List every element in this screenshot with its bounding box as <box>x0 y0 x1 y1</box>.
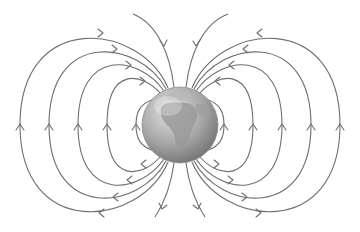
earth-globe <box>142 87 218 163</box>
arrow-left-icon <box>127 176 132 184</box>
arrow-right-icon <box>126 61 131 69</box>
field-line-open-top-left <box>133 14 174 87</box>
arrow-left-icon <box>141 160 146 168</box>
field-line-open-bottom-left <box>155 163 174 217</box>
arrow-left-icon <box>257 29 262 37</box>
arrow-right-icon <box>256 209 261 217</box>
arrow-left-icon <box>229 61 234 69</box>
field-line-open-top-right <box>186 14 228 87</box>
arrow-right-icon <box>228 176 233 184</box>
magnetic-field-diagram <box>0 0 360 232</box>
field-line-open-bottom-right <box>186 163 205 217</box>
arrow-left-icon <box>99 209 104 217</box>
arrow-right-icon <box>214 160 219 168</box>
arrow-right-icon <box>112 45 117 53</box>
arrow-left-icon <box>215 77 220 85</box>
arrow-left-icon <box>243 45 248 53</box>
arrow-right-icon <box>98 29 103 37</box>
arrow-right-icon <box>140 77 145 85</box>
